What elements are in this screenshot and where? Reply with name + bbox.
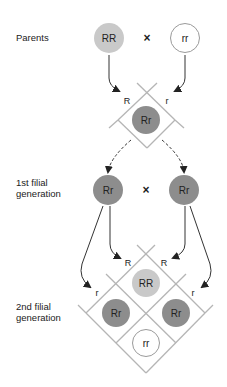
f1-allele-left: R	[124, 96, 131, 106]
f1-right-genotype: Rr	[179, 185, 190, 196]
arrow-f1-right-inner	[173, 206, 185, 258]
parent-left-genotype: RR	[102, 33, 116, 44]
f1-allele-right: r	[166, 96, 169, 106]
f2-right-genotype: Rr	[171, 308, 182, 319]
f1-left-genotype: Rr	[103, 185, 114, 196]
f2-allele-bottom-right: r	[192, 288, 195, 298]
cross-symbol-f1: ×	[142, 183, 149, 197]
arrow-f1-left-outer	[81, 206, 103, 287]
arrow-f1-left-inner	[110, 206, 120, 258]
diagram-svg: RR × rr R r Rr Rr × Rr	[0, 0, 227, 387]
f2-allele-top-right: R	[161, 258, 168, 268]
monohybrid-cross-diagram: Parents 1st filial generation 2nd filial…	[0, 0, 227, 387]
f2-left-genotype: Rr	[111, 308, 122, 319]
parent-right-genotype: rr	[182, 33, 189, 44]
f2-allele-bottom-left: r	[96, 288, 99, 298]
parent-rr-dominant: RR	[94, 23, 124, 53]
f2-top-genotype: RR	[139, 278, 153, 289]
arrow-f1-right-outer	[190, 206, 211, 287]
arrow-parent-left	[109, 55, 119, 91]
arrow-parent-right	[175, 55, 185, 91]
parent-rr-recessive: rr	[171, 24, 200, 53]
dashed-arrow-f1-left	[108, 140, 131, 172]
f2-bottom-genotype: rr	[143, 338, 150, 349]
dashed-arrow-f1-right	[162, 140, 184, 172]
f1-offspring-genotype: Rr	[141, 115, 152, 126]
f2-allele-top-left: R	[125, 258, 132, 268]
cross-symbol-parents: ×	[143, 31, 150, 45]
